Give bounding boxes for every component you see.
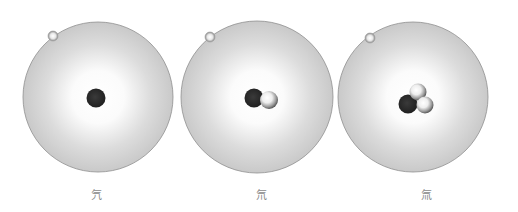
electron-icon xyxy=(48,31,58,41)
label-deuterium: 氘 xyxy=(246,186,276,202)
neutron-icon xyxy=(260,91,278,109)
electron-icon xyxy=(365,33,375,43)
label-tritium: 氚 xyxy=(411,186,441,202)
atom-deuterium xyxy=(181,21,333,173)
isotope-diagram xyxy=(0,0,518,212)
proton-icon xyxy=(87,89,106,108)
electron-icon xyxy=(205,32,215,42)
atom-protium xyxy=(23,22,173,172)
atom-tritium xyxy=(338,22,488,172)
label-protium: 氕 xyxy=(81,186,111,202)
neutron-icon xyxy=(417,97,434,114)
